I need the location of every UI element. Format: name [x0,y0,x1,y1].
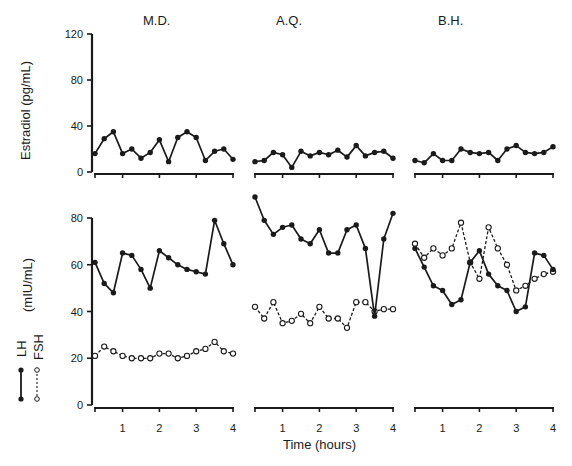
estradiol-series-marker [431,151,436,156]
lh-series-marker [221,241,226,246]
x-axis-tick-label: 1 [120,422,126,434]
estradiol-series-marker [372,150,377,155]
estradiol-series-marker [166,159,171,164]
estradiol-series-marker [344,154,349,159]
fsh-series-marker [271,300,276,305]
lh-series-marker [514,309,519,314]
estradiol-series-marker [422,160,427,165]
lh-series-marker [390,211,395,216]
estradiol-series-marker [532,151,537,156]
lh-series-marker [252,194,257,199]
x-axis-tick-label: 4 [550,422,556,434]
estradiol-y-axis-tick-label: 80 [71,74,83,86]
fsh-series-marker [344,325,349,330]
fsh-series-marker [541,272,546,277]
fsh-series-marker [458,220,463,225]
lh-series-marker [157,248,162,253]
fsh-series-marker [363,300,368,305]
lh-series-marker [184,267,189,272]
lh-series-marker [449,302,454,307]
estradiol-series-marker [289,165,294,170]
lh-series-marker [550,267,555,272]
fsh-series-marker [412,241,417,246]
estradiol-series-marker [381,149,386,154]
fsh-series-marker [422,255,427,260]
estradiol-series-marker [317,150,322,155]
estradiol-series-line [255,146,393,168]
fsh-series-marker [495,246,500,251]
lh-series-marker [468,260,473,265]
fsh-series-marker [326,316,331,321]
lh-series-marker [504,288,509,293]
gonadotropin-y-axis-tick-label: 40 [71,306,83,318]
lh-series-marker [354,222,359,227]
lh-series-marker [412,246,417,251]
estradiol-series-marker [92,151,97,156]
gonadotropin-y-axis-tick-label: 0 [77,399,83,411]
estradiol-series-marker [514,143,519,148]
estradiol-series-marker [111,129,116,134]
lh-series-marker [317,227,322,232]
fsh-series-marker [148,356,153,361]
estradiol-series-marker [221,146,226,151]
estradiol-series-marker [157,137,162,142]
lh-series-marker [298,236,303,241]
x-axis-tick-label: 2 [156,422,162,434]
estradiol-series-marker [271,150,276,155]
legend-fsh-marker-icon [35,397,40,402]
fsh-series-marker [203,346,208,351]
lh-series-marker [111,290,116,295]
legend-lh-label: LH [14,340,29,357]
hormone-figure: 04080120020406080123412341234 [0,0,572,466]
lh-series-marker [363,246,368,251]
lh-series-marker [477,248,482,253]
estradiol-series-marker [440,158,445,163]
lh-series-marker [541,253,546,258]
lh-series-marker [212,218,217,223]
estradiol-series-line [95,132,233,162]
fsh-series-marker [92,353,97,358]
fsh-series-marker [157,351,162,356]
fsh-series-marker [317,304,322,309]
lh-series-marker [102,281,107,286]
x-axis-tick-label: 2 [316,422,322,434]
fsh-series-marker [138,356,143,361]
estradiol-series-marker [326,152,331,157]
estradiol-series-marker [280,152,285,157]
estradiol-series-marker [477,151,482,156]
legend-fsh-marker-icon [35,368,40,373]
x-axis-tick-label: 3 [193,422,199,434]
lh-series-marker [326,250,331,255]
lh-series-marker [495,283,500,288]
lh-series-marker [440,288,445,293]
x-axis-tick-label: 3 [353,422,359,434]
fsh-series-marker [102,344,107,349]
x-axis-tick-label: 1 [440,422,446,434]
subject-title-aq: A.Q. [276,13,302,28]
lh-series-marker [194,269,199,274]
lh-series-marker [308,241,313,246]
estradiol-series-marker [335,147,340,152]
estradiol-series-marker [262,158,267,163]
lh-series-marker [120,250,125,255]
x-axis-tick-label: 4 [230,422,236,434]
lh-series-marker [203,271,208,276]
lh-series-marker [335,250,340,255]
fsh-series-marker [252,304,257,309]
fsh-series-marker [477,276,482,281]
lh-series-marker [129,253,134,258]
fsh-series-marker [390,307,395,312]
gonadotropin-axis-unit-label: (mIU/mL) [20,258,35,312]
legend-lh-marker-icon [18,367,23,372]
estradiol-series-marker [495,158,500,163]
lh-series-marker [138,267,143,272]
lh-series-marker [431,283,436,288]
x-axis-tick-label: 2 [476,422,482,434]
fsh-series-marker [262,316,267,321]
estradiol-y-axis-tick-label: 40 [71,120,83,132]
fsh-series-marker [449,246,454,251]
estradiol-series-marker [194,135,199,140]
fsh-series-marker [532,276,537,281]
fsh-series-marker [280,321,285,326]
legend-fsh-label: FSH [31,334,46,360]
